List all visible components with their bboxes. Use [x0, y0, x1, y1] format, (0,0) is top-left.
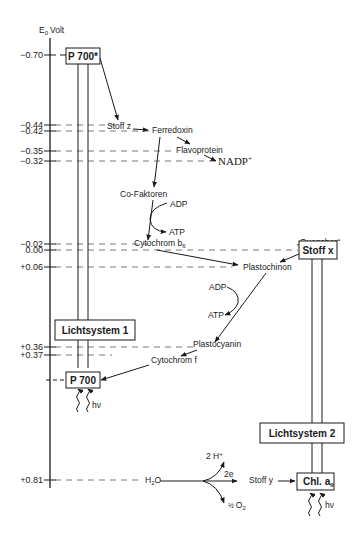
svg-text:Lichtsystem 2: Lichtsystem 2 [269, 428, 336, 439]
oxygen-label: ½O2 [228, 500, 246, 511]
axis-tick-label: +0.37 [20, 350, 43, 360]
cofaktoren-label: Co-Faktoren [120, 189, 168, 199]
adp-2-label: ADP [209, 282, 227, 292]
chl-a2-box: Chl. aII [297, 473, 334, 490]
atp-1-label: ATP [169, 227, 185, 237]
svg-text:P 700: P 700 [70, 375, 96, 386]
adp-1-label: ADP [170, 199, 188, 209]
axis-label: E0Volt [39, 25, 65, 36]
svg-text:P 700*: P 700* [68, 51, 98, 62]
light-input-ps1: hν [77, 389, 101, 412]
electrons-label: 2e [224, 469, 234, 479]
cytochrom-b6-label: Cytochrom b6 [134, 238, 186, 249]
axis-tick-label: 0.00 [25, 245, 43, 255]
lichtsystem-2-box: Lichtsystem 2 [260, 423, 344, 443]
svg-text:Lichtsystem 1: Lichtsystem 1 [62, 325, 129, 336]
stoff-z-label: Stoff z [107, 121, 131, 131]
plastochinon-label: Plastochinon [243, 262, 292, 272]
plastocyanin-label: Plastocyanin [193, 339, 241, 349]
axis-tick-label: −0.42 [20, 126, 43, 136]
svg-text:Stoff x: Stoff x [302, 245, 334, 256]
nadp-label: NADP+ [218, 155, 252, 167]
light-input-ps2: hν [309, 493, 334, 516]
svg-text:Chl. aII: Chl. aII [303, 476, 334, 488]
svg-text:hν: hν [92, 400, 101, 410]
stoff-x-box: Stoff x [299, 241, 337, 259]
atp-2-label: ATP [208, 310, 224, 320]
axis-tick-label: −0.70 [20, 50, 43, 60]
p700-box: P 700 [46, 372, 100, 388]
photosynthesis-z-scheme-diagram: E0Volt −0.70−0.44−0.42−0.35−0.32−0.020.0… [0, 0, 362, 540]
protons-label: 2 H+ [206, 451, 223, 461]
axis-tick-label: +0.06 [20, 262, 43, 272]
flavoprotein-label: Flavoprotein [176, 145, 223, 155]
axis-tick-label: +0.81 [20, 475, 43, 485]
h2o-label: H2O [145, 475, 161, 486]
redox-potential-axis: E0Volt −0.70−0.44−0.42−0.35−0.32−0.020.0… [20, 25, 65, 488]
lichtsystem-1-box: Lichtsystem 1 [55, 320, 135, 340]
cytochrom-f-label: Cytochrom f [151, 355, 197, 365]
axis-tick-label: −0.35 [20, 146, 43, 156]
photosystem-1: P 700* Lichtsystem 1 P 700 hν [46, 48, 135, 412]
svg-text:hν: hν [325, 500, 334, 510]
axis-tick-label: −0.32 [20, 156, 43, 166]
p700-star-box: P 700* [60, 48, 100, 64]
stoff-y-label: Stoff y [249, 475, 274, 485]
ferredoxin-label: Ferredoxin [152, 125, 193, 135]
